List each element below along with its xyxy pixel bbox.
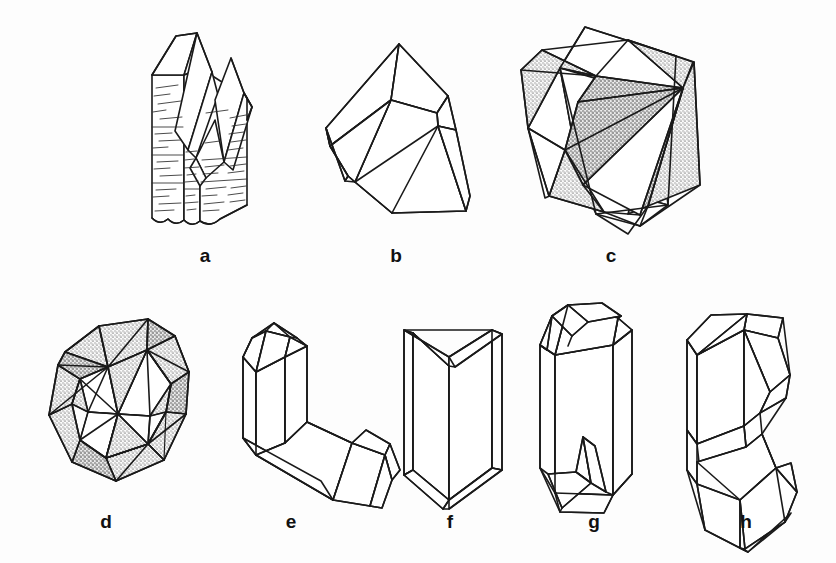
figure-e-label: e <box>286 511 297 532</box>
figure-g-left-face <box>540 345 555 493</box>
figure-f-left-wing-outer <box>404 330 413 475</box>
figure-h-label: h <box>740 511 752 532</box>
figure-f-label: f <box>447 511 454 532</box>
figure-a-left-prism-face <box>152 75 184 223</box>
figure-f-right-wing-outer <box>492 330 502 470</box>
crystal-figure-plate: a b <box>0 0 836 563</box>
figure-g-right-face <box>613 330 632 495</box>
figure-e-upper-front-face <box>256 357 285 455</box>
figure-a-label: a <box>200 245 211 266</box>
figure-d-label: d <box>100 511 112 532</box>
figure-h-upper-left-face <box>687 340 697 444</box>
figure-b-label: b <box>390 245 402 266</box>
figure-g-label: g <box>588 511 600 532</box>
plate-canvas: a b <box>0 0 836 563</box>
figure-c-label: c <box>606 245 617 266</box>
